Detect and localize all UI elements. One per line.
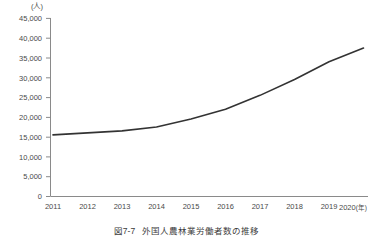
y-tick-label-15000: 15,000 [8,133,42,142]
x-tick-label-2013: 2013 [108,202,136,211]
y-tick-label-0: 0 [8,192,42,201]
y-tick-label-35000: 35,000 [8,54,42,63]
x-tick-label-2011: 2011 [39,202,67,211]
x-tick-label-2014: 2014 [143,202,171,211]
x-tick-label-2017: 2017 [246,202,274,211]
y-tick-label-10000: 10,000 [8,153,42,162]
figure-caption-number: 図7-7 [114,226,135,236]
figure-container: (人) 0 5,000 10,000 15,000 20,000 25,000 … [0,0,373,239]
figure-caption-text: 外国人農林業労働者数の推移 [142,226,259,236]
y-tick-label-5000: 5,000 [8,172,42,181]
y-tick-label-20000: 20,000 [8,113,42,122]
x-tick-label-2020: 2020(年) [339,202,373,212]
x-axis-unit-label: (年) [356,204,367,211]
x-tick-label-2020-year: 2020 [339,203,356,212]
y-axis-ticks [46,18,51,196]
x-tick-label-2016: 2016 [212,202,240,211]
x-tick-label-2012: 2012 [74,202,102,211]
x-tick-label-2018: 2018 [281,202,309,211]
y-tick-label-30000: 30,000 [8,74,42,83]
x-tick-label-2015: 2015 [177,202,205,211]
y-tick-label-25000: 25,000 [8,93,42,102]
y-tick-label-40000: 40,000 [8,34,42,43]
figure-caption: 図7-7外国人農林業労働者数の推移 [0,224,373,236]
y-tick-label-45000: 45,000 [8,14,42,23]
data-series-line [53,48,364,135]
